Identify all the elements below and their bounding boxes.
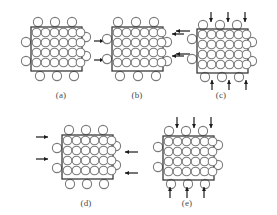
panel-c: (c) <box>186 14 272 88</box>
lattice-a <box>21 17 90 80</box>
panel-b-diagram <box>100 14 190 86</box>
figure-root: (a) <box>0 0 277 215</box>
panel-d: (d) <box>44 122 136 194</box>
panel-a: (a) <box>18 14 104 86</box>
panel-e-label: (e) <box>144 198 230 208</box>
arrows-c-bottom <box>210 80 248 90</box>
arrows-d-right <box>125 150 138 175</box>
panel-b-label: (b) <box>92 90 182 100</box>
panel-b: (b) <box>100 14 190 86</box>
panel-c-label: (c) <box>178 90 264 100</box>
arrows-e-top <box>175 117 213 128</box>
lattice-e <box>153 126 222 188</box>
panel-e: (e) <box>152 120 238 196</box>
arrows-e-bottom <box>168 187 206 198</box>
lattice-c <box>187 20 256 81</box>
panel-d-label: (d) <box>40 198 132 208</box>
arrows-d-left <box>36 135 48 161</box>
lattice-d <box>52 125 120 188</box>
panel-d-diagram <box>44 122 136 194</box>
panel-a-diagram <box>18 14 104 86</box>
arrows-c-top <box>209 12 247 22</box>
lattice-b <box>102 17 171 80</box>
panel-c-diagram <box>186 14 272 88</box>
panel-e-diagram <box>152 120 238 196</box>
